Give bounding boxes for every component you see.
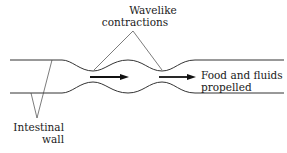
- intestinal-wall-label: Intestinal wall: [6, 121, 64, 145]
- peristalsis-diagram: Wavelike contractions Food and fluids pr…: [0, 0, 287, 153]
- propulsion-arrow-1: [90, 74, 129, 80]
- food-and-fluids-label: Food and fluids propelled: [201, 69, 283, 93]
- wall-pointer-top: [37, 60, 52, 118]
- contraction-pointer-right: [133, 31, 162, 70]
- food-line-1: Food and fluids: [201, 69, 283, 81]
- wall-pointer-bottom: [31, 93, 37, 118]
- wavelike-line-1: Wavelike: [118, 4, 188, 16]
- wavelike-line-2: contractions: [100, 16, 170, 28]
- food-line-2: propelled: [201, 81, 283, 93]
- wall-line-1: Intestinal: [6, 121, 64, 133]
- contraction-pointer-left: [94, 31, 133, 70]
- propulsion-arrow-2: [159, 74, 196, 80]
- wall-line-2: wall: [6, 133, 64, 145]
